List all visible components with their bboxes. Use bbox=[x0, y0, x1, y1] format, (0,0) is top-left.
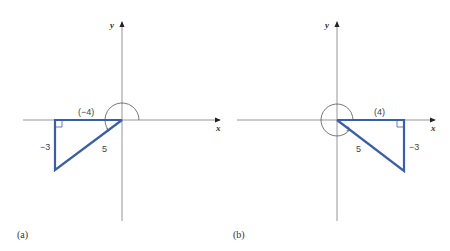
panel-a: x y (−4) −3 5 (a) bbox=[17, 20, 221, 241]
panel-caption: (a) bbox=[17, 229, 28, 241]
panel-caption: (b) bbox=[233, 229, 245, 241]
hypotenuse-label: 5 bbox=[102, 144, 107, 154]
diagram-canvas: x y (−4) −3 5 (a) x y (4) −3 5 (b) bbox=[0, 0, 450, 251]
y-axis-label: y bbox=[109, 20, 115, 30]
hypotenuse-label: 5 bbox=[356, 144, 361, 154]
y-axis-label: y bbox=[324, 20, 330, 30]
reference-triangle bbox=[337, 120, 404, 171]
reference-triangle bbox=[55, 120, 122, 170]
adjacent-label: (−4) bbox=[78, 107, 94, 117]
opposite-label: −3 bbox=[409, 142, 419, 152]
opposite-label: −3 bbox=[40, 142, 50, 152]
adjacent-label: (4) bbox=[374, 107, 385, 117]
x-axis-label: x bbox=[430, 123, 436, 133]
panel-b: x y (4) −3 5 (b) bbox=[233, 20, 436, 241]
x-axis-label: x bbox=[215, 123, 221, 133]
